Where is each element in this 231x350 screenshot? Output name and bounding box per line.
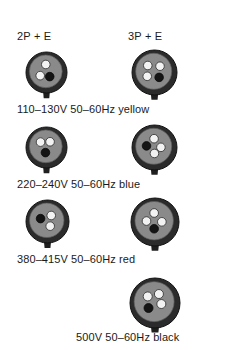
connector-red-2p-e	[22, 196, 73, 256]
connector-red-3p-e	[127, 194, 183, 259]
connector-black-3p-e-pin-live-0	[143, 292, 152, 301]
connector-yellow-2p-e	[22, 48, 71, 106]
connector-red-2p-e-pin-live-2	[46, 222, 55, 231]
connector-red-2p-e-graphic	[22, 196, 73, 256]
connector-blue-2p-e-pin-live-1	[46, 137, 55, 146]
connector-red-2p-e-pin-earth-0	[36, 214, 45, 223]
connector-yellow-2p-e-pin-live-1	[36, 71, 45, 80]
connector-blue-2p-e-pin-earth-2	[41, 148, 50, 157]
connector-yellow-3p-e	[128, 46, 181, 108]
connector-yellow-3p-e-pin-live-2	[143, 72, 152, 81]
caption-yellow: 110–130V 50–60Hz yellow	[17, 103, 149, 115]
connector-yellow-3p-e-pin-live-0	[143, 61, 152, 70]
connector-red-3p-e-pin-live-2	[158, 218, 167, 227]
connector-red-3p-e-pin-live-1	[142, 217, 151, 226]
column-header-2p-e: 2P + E	[17, 30, 51, 42]
connector-blue-2p-e-graphic	[22, 123, 71, 181]
connector-blue-3p-e-face	[136, 128, 172, 164]
connector-red-3p-e-pin-live-0	[150, 209, 159, 218]
connector-red-3p-e-graphic	[127, 194, 183, 259]
connector-blue-3p-e-pin-live-3	[150, 149, 159, 158]
connector-blue-3p-e	[128, 121, 181, 183]
caption-blue: 220–240V 50–60Hz blue	[17, 178, 140, 190]
connector-blue-3p-e-graphic	[128, 121, 181, 183]
caption-black: 500V 50–60Hz black	[76, 331, 179, 343]
connector-red-3p-e-face	[135, 201, 173, 239]
connector-blue-2p-e	[22, 123, 71, 181]
connector-yellow-3p-e-pin-earth-3	[155, 73, 164, 82]
connector-yellow-3p-e-face	[136, 53, 172, 89]
connector-black-3p-e-pin-live-2	[157, 300, 166, 309]
connector-red-3p-e-pin-earth-3	[150, 224, 159, 233]
connector-red-2p-e-face	[30, 203, 64, 237]
connector-yellow-2p-e-pin-live-0	[41, 60, 50, 69]
connector-blue-2p-e-pin-live-0	[36, 138, 45, 147]
connector-yellow-2p-e-pin-earth-2	[45, 72, 54, 81]
caption-red: 380–415V 50–60Hz red	[17, 253, 135, 265]
connector-yellow-2p-e-graphic	[22, 48, 71, 106]
connector-yellow-3p-e-graphic	[128, 46, 181, 108]
connector-blue-3p-e-pin-earth-1	[142, 142, 151, 151]
column-header-3p-e: 3P + E	[128, 30, 162, 42]
connector-black-3p-e-face	[134, 282, 174, 322]
diagram-sheet: 2P + E 3P + E 110–130V 50–60Hz yellow 22…	[0, 0, 231, 350]
connector-yellow-3p-e-pin-live-1	[156, 62, 165, 71]
connector-red-2p-e-pin-live-1	[47, 211, 56, 220]
connector-blue-3p-e-pin-live-0	[150, 134, 159, 143]
connector-black-3p-e-pin-earth-3	[144, 304, 153, 313]
connector-blue-2p-e-face	[29, 130, 62, 163]
connector-black-3p-e-pin-live-1	[154, 290, 163, 299]
